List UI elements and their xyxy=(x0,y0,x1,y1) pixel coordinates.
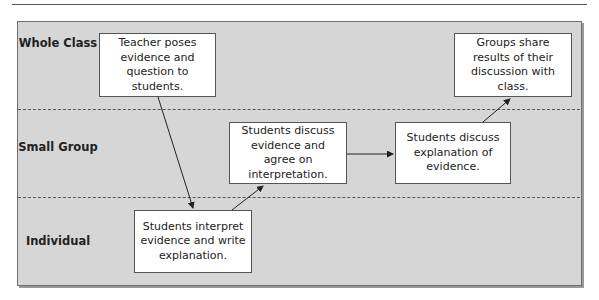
lane-divider-1 xyxy=(18,109,580,110)
step-teacher-poses: Teacher poses evidence and question to s… xyxy=(99,33,216,97)
lane-divider-2 xyxy=(18,197,580,198)
step-students-discuss-evidence: Students discuss evidence and agree on i… xyxy=(229,122,347,184)
step-students-discuss-explanation: Students discuss explanation of evidence… xyxy=(395,122,511,184)
lane-label-whole-class: Whole Class xyxy=(18,36,98,50)
lane-label-individual: Individual xyxy=(18,234,98,248)
top-rule xyxy=(12,4,587,5)
step-groups-share: Groups share results of their discussion… xyxy=(454,33,572,97)
step-students-interpret: Students interpret evidence and write ex… xyxy=(134,210,252,273)
lane-label-small-group: Small Group xyxy=(18,140,98,154)
